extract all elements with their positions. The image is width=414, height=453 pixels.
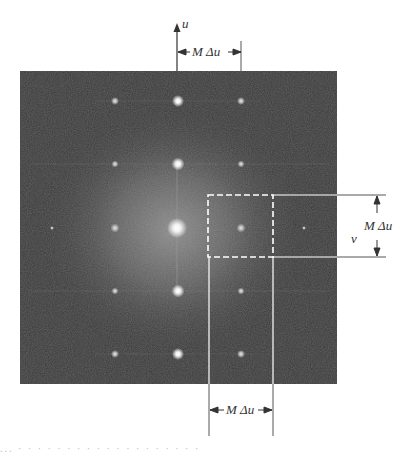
caption-fragment: ... · · · · · · · · · · · · · · · · · · … bbox=[0, 444, 414, 453]
u-axis-label: u bbox=[180, 17, 191, 30]
u-axis bbox=[174, 23, 181, 71]
spectrum-image bbox=[20, 71, 337, 384]
bottom-dimension-label: M Δu bbox=[224, 403, 256, 416]
right-dimension-label: M Δu bbox=[362, 219, 394, 232]
top-dimension-label: M Δu bbox=[190, 45, 222, 58]
diagram-canvas bbox=[0, 0, 414, 453]
fourier-spectrum-diagram: u M Δu M Δu v M Δu ... · · · · · · · · ·… bbox=[0, 0, 414, 453]
v-axis-label: v bbox=[349, 232, 359, 245]
